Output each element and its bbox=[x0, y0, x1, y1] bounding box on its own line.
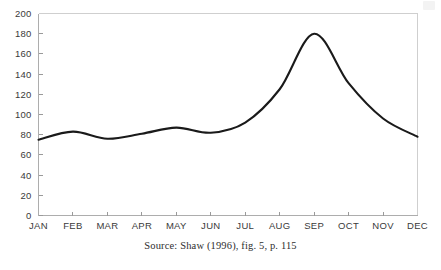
figure: 020406080100120140160180200JANFEBMARAPRM… bbox=[0, 0, 441, 270]
y-axis-tick-label: 60 bbox=[21, 149, 32, 160]
x-axis-tick-label: SEP bbox=[304, 220, 324, 231]
source-caption: Source: Shaw (1996), fig. 5, p. 115 bbox=[0, 240, 441, 251]
y-axis-tick-label: 160 bbox=[15, 48, 31, 59]
x-axis-tick-label: JAN bbox=[29, 220, 48, 231]
y-axis-tick-label: 120 bbox=[15, 89, 31, 100]
y-axis-tick-label: 20 bbox=[21, 190, 32, 201]
chart-plot-area: 020406080100120140160180200JANFEBMARAPRM… bbox=[0, 0, 441, 270]
x-axis-tick-label: FEB bbox=[63, 220, 82, 231]
data-series-line bbox=[39, 34, 418, 140]
y-axis-tick-label: 100 bbox=[15, 109, 31, 120]
x-axis-tick-label: JUN bbox=[201, 220, 220, 231]
y-axis-tick-label: 140 bbox=[15, 69, 31, 80]
x-axis-tick-label: APR bbox=[132, 220, 152, 231]
x-axis-tick-label: JUL bbox=[236, 220, 254, 231]
y-axis-tick-label: 180 bbox=[15, 28, 31, 39]
x-axis-tick-label: MAY bbox=[166, 220, 187, 231]
y-axis-tick-label: 80 bbox=[21, 129, 32, 140]
x-axis-tick-label: NOV bbox=[372, 220, 394, 231]
y-axis-tick-label: 200 bbox=[15, 8, 31, 19]
line-chart: 020406080100120140160180200JANFEBMARAPRM… bbox=[0, 0, 441, 270]
x-axis-tick-label: DEC bbox=[407, 220, 428, 231]
x-axis-tick-label: MAR bbox=[96, 220, 118, 231]
y-axis-tick-label: 40 bbox=[21, 170, 32, 181]
x-axis-tick-label: OCT bbox=[338, 220, 359, 231]
x-axis-tick-label: AUG bbox=[269, 220, 291, 231]
